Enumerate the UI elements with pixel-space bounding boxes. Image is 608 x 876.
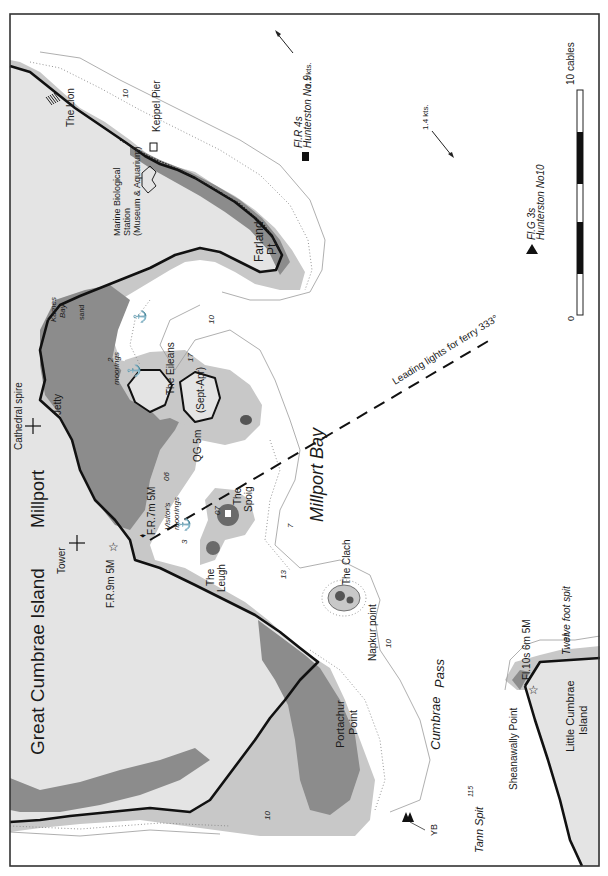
the-eileans-label: The Eileans — [165, 342, 176, 395]
cathedral-spire-label: Cathedral spire — [13, 382, 24, 450]
scale-zero-label: 0 — [566, 316, 576, 321]
anchor-icon: ⚓ — [133, 309, 147, 324]
sept-apr-label: (Sept-Apr) — [195, 367, 206, 413]
portachur-point-label-1: Portachur — [334, 700, 346, 748]
jetty-label: Jetty — [52, 394, 63, 415]
millport-label: Millport — [28, 470, 48, 528]
sounding: 115 — [467, 786, 474, 797]
light-fr7-label: F.R.7m 5M — [146, 487, 157, 535]
cumbrae-label: Cumbrae — [428, 697, 443, 750]
little-cumbrae-label-1: Little Cumbrae — [564, 680, 576, 752]
sand-label: sand — [78, 305, 85, 320]
kames-bay-label-2: Bay — [58, 303, 67, 318]
yb-label: YB — [429, 824, 439, 836]
little-cumbrae-label-2: Island — [577, 706, 589, 735]
sheanawally-point-label: Sheanawally Point — [508, 708, 519, 790]
sounding: 31 — [563, 633, 570, 641]
the-spoig-label-1: The — [232, 487, 243, 505]
twelve-foot-spit-label: Twelve foot spit — [561, 585, 572, 655]
great-cumbrae-label: Great Cumbrae Island — [27, 568, 48, 755]
pass-label: Pass — [432, 659, 447, 688]
marine-station-label-1: Marine Biological — [112, 167, 122, 236]
buoy-10-name-label: Hunterston No10 — [535, 164, 546, 240]
the-spoig-label-2: Spoig — [243, 486, 254, 512]
buoy-hunterston-9-icon — [302, 152, 309, 161]
scale-label: 10 cables — [565, 42, 576, 85]
napkur-point-label: Napkur point — [367, 604, 378, 661]
anchor-icon: ⚓ — [127, 363, 141, 378]
sounding: 10 — [263, 811, 272, 820]
sounding: 10 — [207, 315, 216, 324]
moorings-label: moorings — [112, 352, 121, 385]
sounding: 13 — [279, 570, 288, 579]
the-leugh-label-2: Leugh — [216, 564, 227, 592]
visitors-moorings-label-2: moorings — [172, 497, 181, 530]
keppel-pier-label: Keppel Pier — [151, 80, 162, 132]
light-fl10-label: Fl.10s 6m 5M — [521, 619, 532, 680]
kames-bay-label-1: Kames — [49, 297, 58, 322]
sounding: 7 — [286, 523, 295, 528]
light-star-icon: ☆ — [108, 540, 119, 554]
sounding: 17 — [186, 353, 195, 362]
the-leugh-label-1: The — [205, 568, 216, 586]
nautical-chart: ☆ ⌖ ☆ ⚓ ⚓ ⚓ Great Cumbrae Island Millpor… — [0, 0, 608, 876]
small-rock — [240, 415, 252, 425]
portachur-point-label-2: Point — [347, 710, 359, 735]
keppel-pier-icon — [150, 143, 157, 151]
the-clach-label: The Clach — [341, 539, 352, 585]
sounding: 07 — [213, 506, 222, 515]
light-fr9-label: F.R.9m 5M — [105, 560, 116, 608]
tidal-stream-2-label: 1.4 kts. — [421, 104, 430, 130]
tidal-stream-1-label: 1.1 kts. — [304, 62, 313, 88]
scale-bar — [577, 90, 583, 315]
light-star-icon: ☆ — [528, 683, 539, 697]
farland-label-1: Farland — [252, 221, 266, 262]
sounding: 10 — [121, 89, 130, 98]
sounding: 06 — [162, 472, 171, 481]
millport-bay-label: Millport Bay — [307, 427, 327, 522]
tower-label: Tower — [56, 547, 67, 574]
marine-station-label-2: Station — [122, 208, 132, 236]
visitors-moorings-label-1: Visitor's — [163, 502, 172, 530]
the-lion-label: The Lion — [65, 88, 76, 127]
sounding: 3 — [180, 539, 189, 544]
farland-label-2: Pt. — [265, 240, 279, 255]
marine-station-label-3: (Museum & Aquarium) — [132, 146, 142, 236]
sounding: 10 — [384, 639, 393, 648]
sounding: 2 — [106, 357, 115, 363]
tann-spit-label: Tann Spit — [473, 806, 485, 853]
light-qg5-label: QG 5m — [192, 430, 203, 462]
